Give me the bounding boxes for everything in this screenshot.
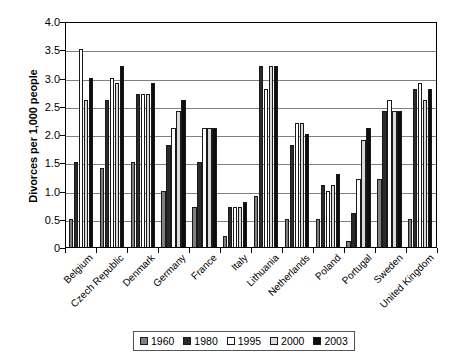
bar-portugal-1960	[346, 241, 350, 247]
bar-germany-2003	[181, 100, 185, 247]
bar-belgium-2000	[84, 100, 88, 247]
legend-swatch-icon	[140, 337, 148, 345]
chart-legend: 19601980199520002003	[133, 331, 355, 351]
bar-belgium-1995	[79, 49, 83, 247]
x-tick-mark	[65, 248, 66, 253]
bar-sweden-2000	[392, 111, 396, 247]
y-tick-mark	[60, 107, 65, 108]
bar-group	[374, 23, 405, 247]
y-tick-label: 2.5	[34, 101, 60, 113]
bar-group	[313, 23, 344, 247]
bar-denmark-2000	[146, 94, 150, 247]
bar-group	[405, 23, 436, 247]
x-tick-label: United Kingdom	[377, 252, 435, 310]
bar-france-1980	[197, 162, 201, 247]
bar-italy-2003	[243, 202, 247, 247]
x-tick-mark	[251, 248, 252, 253]
y-tick-mark	[60, 22, 65, 23]
bar-united-kingdom-1995	[418, 83, 422, 247]
bar-united-kingdom-2003	[428, 89, 432, 247]
bar-group	[158, 23, 189, 247]
y-tick-mark	[60, 192, 65, 193]
x-tick-mark	[437, 248, 438, 253]
y-tick-mark	[60, 163, 65, 164]
x-tick-mark	[406, 248, 407, 253]
bar-sweden-2003	[397, 111, 401, 247]
legend-label: 1995	[238, 335, 261, 347]
bar-netherlands-1995	[295, 123, 299, 247]
bar-groups	[66, 23, 436, 247]
bar-poland-2000	[331, 185, 335, 247]
legend-swatch-icon	[270, 337, 278, 345]
bar-czech-republic-2000	[115, 83, 119, 247]
bar-portugal-1980	[351, 213, 355, 247]
x-tick-mark	[189, 248, 190, 253]
bar-portugal-2003	[366, 128, 370, 247]
bar-italy-1980	[228, 207, 232, 247]
bar-france-1960	[192, 207, 196, 247]
bar-denmark-1995	[141, 94, 145, 247]
x-tick-label: France	[188, 252, 218, 282]
bar-denmark-2003	[151, 83, 155, 247]
y-tick-label: 2.0	[34, 129, 60, 141]
legend-label: 2000	[281, 335, 304, 347]
legend-item-1995: 1995	[227, 335, 261, 347]
x-tick-label: Portugal	[339, 252, 373, 286]
bar-czech-republic-1960	[100, 168, 104, 247]
bar-sweden-1960	[377, 179, 381, 247]
bar-sweden-1980	[382, 111, 386, 247]
x-tick-label: Poland	[312, 252, 342, 282]
bar-united-kingdom-1960	[408, 219, 412, 247]
y-tick-mark	[60, 50, 65, 51]
legend-item-1960: 1960	[140, 335, 174, 347]
bar-italy-2000	[238, 207, 242, 247]
y-tick-mark	[60, 135, 65, 136]
bar-netherlands-1960	[285, 219, 289, 247]
y-tick-label: 3.5	[34, 44, 60, 56]
bar-group	[97, 23, 128, 247]
y-tick-label: 0.5	[34, 214, 60, 226]
bar-belgium-1960	[69, 219, 73, 247]
x-tick-mark	[96, 248, 97, 253]
legend-swatch-icon	[183, 337, 191, 345]
y-tick-mark	[60, 220, 65, 221]
bar-denmark-1960	[131, 162, 135, 247]
bar-netherlands-2003	[305, 134, 309, 247]
y-tick-label: 1.0	[34, 186, 60, 198]
legend-label: 1980	[194, 335, 217, 347]
bar-group	[343, 23, 374, 247]
bar-group	[189, 23, 220, 247]
x-tick-mark	[282, 248, 283, 253]
bar-germany-2000	[176, 111, 180, 247]
y-tick-label: 3.0	[34, 73, 60, 85]
plot-area	[65, 22, 437, 248]
legend-item-2003: 2003	[313, 335, 347, 347]
bar-group	[282, 23, 313, 247]
bar-united-kingdom-1980	[413, 89, 417, 247]
bar-united-kingdom-2000	[423, 100, 427, 247]
bar-czech-republic-1995	[110, 78, 114, 248]
bar-group	[220, 23, 251, 247]
x-tick-label: Italy	[229, 252, 250, 273]
bar-lithuania-1995	[264, 89, 268, 247]
bar-lithuania-1960	[254, 196, 258, 247]
x-tick-mark	[344, 248, 345, 253]
bar-poland-1980	[321, 185, 325, 247]
bar-group	[251, 23, 282, 247]
legend-label: 2003	[324, 335, 347, 347]
bar-france-2003	[212, 128, 216, 247]
bar-netherlands-1980	[290, 145, 294, 247]
bar-czech-republic-1980	[105, 100, 109, 247]
x-tick-label: Denmark	[120, 252, 156, 288]
divorce-rate-bar-chart: Divorces per 1,000 people 00.51.01.52.02…	[0, 0, 455, 364]
x-tick-mark	[158, 248, 159, 253]
bar-czech-republic-2003	[120, 66, 124, 247]
x-axis-tick-labels: BelgiumCzech RepublicDenmarkGermanyFranc…	[65, 252, 437, 320]
bar-poland-1995	[326, 191, 330, 248]
bar-germany-1980	[166, 145, 170, 247]
legend-swatch-icon	[313, 337, 321, 345]
bar-lithuania-2003	[274, 66, 278, 247]
bar-belgium-2003	[89, 78, 93, 248]
y-tick-label: 4.0	[34, 16, 60, 28]
legend-item-1980: 1980	[183, 335, 217, 347]
